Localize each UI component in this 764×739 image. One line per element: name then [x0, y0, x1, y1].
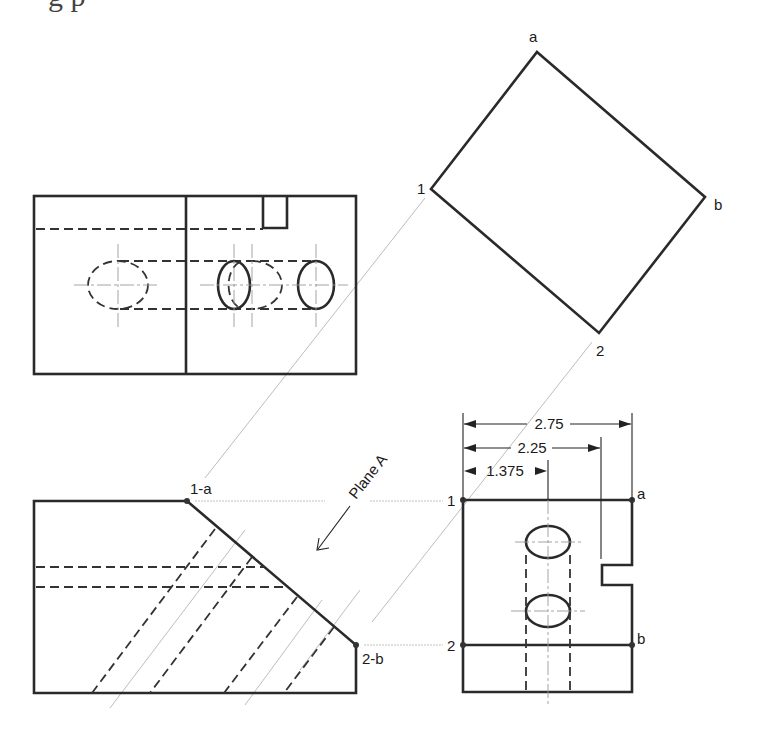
auxiliary-view: a b 1 2: [417, 28, 722, 359]
cut-off-text-fragment: g p: [48, 0, 86, 12]
construction-diagonal: [300, 590, 360, 670]
side-view: 1 2 a b 2.75 2.25 1.375: [447, 413, 646, 706]
vertex-label-2: 2: [596, 342, 604, 359]
hidden-diagonal: [150, 557, 252, 693]
front-view: 1-a 2-b Plane A: [34, 451, 390, 693]
arrow-right-icon: [588, 444, 600, 452]
auxiliary-outline: [431, 52, 705, 333]
projection-line-2: [372, 342, 592, 622]
plane-a-label: Plane A: [345, 451, 390, 502]
front-view-outline: [34, 501, 356, 693]
point-b-marker: [629, 642, 635, 648]
hidden-diagonal: [92, 529, 215, 693]
vertex-label-a: a: [529, 28, 538, 45]
arrow-left-icon: [464, 420, 476, 428]
hidden-diagonal: [284, 627, 334, 693]
top-view-slot: [263, 196, 287, 228]
point-label-1a: 1-a: [190, 480, 212, 497]
point-2b-marker: [353, 642, 359, 648]
dimensions: 2.75 2.25 1.375: [463, 413, 632, 559]
arrow-right-icon: [535, 467, 547, 475]
arrow-right-icon: [619, 420, 631, 428]
point-2-marker: [460, 642, 466, 648]
point-label-b: b: [637, 630, 645, 647]
dim-label-2-75: 2.75: [534, 415, 563, 432]
construction-diagonal: [245, 600, 322, 705]
point-label-2b: 2-b: [362, 650, 384, 667]
dim-label-2-25: 2.25: [517, 439, 546, 456]
point-1a-marker: [184, 498, 190, 504]
projection-line-1: [205, 198, 425, 478]
plane-arrow-shaft: [318, 506, 350, 549]
vertex-label-b: b: [714, 196, 722, 213]
point-label-1: 1: [447, 492, 455, 509]
point-label-a: a: [637, 485, 646, 502]
vertex-label-1: 1: [417, 180, 425, 197]
dim-label-1-375: 1.375: [486, 462, 524, 479]
construction-diagonal: [110, 530, 245, 708]
hidden-diagonal: [224, 597, 297, 693]
plane-a-indicator: Plane A: [317, 451, 390, 550]
point-label-2: 2: [447, 637, 455, 654]
arrow-left-icon: [464, 444, 476, 452]
arrow-left-icon: [464, 467, 476, 475]
orthographic-drawing: g p a b 1 2: [0, 0, 764, 739]
drawing-canvas: g p a b 1 2: [0, 0, 764, 739]
